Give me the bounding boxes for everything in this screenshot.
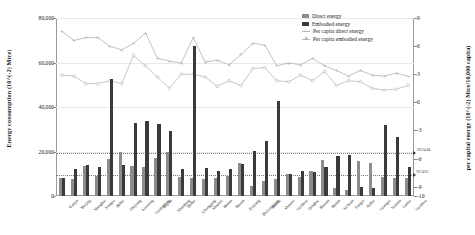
reference-line-value: 9574.93 bbox=[417, 170, 429, 174]
x-axis-tick-label: Anhui bbox=[365, 198, 376, 209]
bar-embodied-energy bbox=[193, 46, 196, 196]
bar-embodied-energy bbox=[324, 167, 327, 196]
bar-embodied-energy bbox=[253, 151, 256, 196]
bar-group bbox=[116, 18, 128, 196]
bar-group bbox=[283, 18, 295, 196]
x-axis-tick-label: Xinjiang bbox=[247, 198, 261, 212]
bar-group bbox=[402, 18, 414, 196]
bar-group bbox=[307, 18, 319, 196]
bar-embodied-energy bbox=[145, 121, 148, 196]
x-axis-tick-label: Hainan bbox=[318, 198, 330, 210]
x-axis-tick-label: Hunan bbox=[234, 198, 245, 209]
x-axis-tick-label: Tianjin bbox=[67, 198, 79, 210]
bar-group bbox=[366, 18, 378, 196]
bar-group bbox=[151, 18, 163, 196]
bar-group bbox=[92, 18, 104, 196]
legend-item[interactable]: Embodied energy bbox=[302, 21, 373, 27]
y-axis-left-tick-label: 60,000 bbox=[39, 60, 54, 66]
y-axis-right-tick-mark bbox=[414, 18, 417, 19]
x-axis-tick-label: Jiangxi bbox=[354, 198, 366, 210]
bar-group bbox=[354, 18, 366, 196]
bar-group bbox=[378, 18, 390, 196]
bar-group bbox=[163, 18, 175, 196]
x-axis-tick-label: Qinghai bbox=[306, 198, 319, 211]
bar-embodied-energy bbox=[277, 101, 280, 196]
x-axis-tick-label: Guizhou bbox=[414, 198, 428, 212]
x-axis-tick-label: Hebei bbox=[115, 198, 125, 208]
bar-embodied-energy bbox=[313, 172, 316, 196]
bar-embodied-energy bbox=[348, 155, 351, 196]
y-axis-right-tick-mark bbox=[414, 74, 417, 75]
bar-group bbox=[211, 18, 223, 196]
x-axis-tick-label: Shaanxi bbox=[283, 198, 296, 211]
y-axis-right-tick-label: -3 bbox=[417, 127, 422, 133]
y-axis-left-title-text: Energy consumption (10^(-2) Mtce) bbox=[6, 49, 13, 147]
bar-embodied-energy bbox=[372, 188, 375, 196]
bar-group bbox=[68, 18, 80, 196]
x-axis-tick-label: Guizhou bbox=[295, 198, 309, 212]
bar-group bbox=[140, 18, 152, 196]
y-axis-left-title: Energy consumption (10^(-2) Mtce) bbox=[2, 0, 16, 196]
x-axis-labels: TianjinBeijingShanghaiJiangsuHebeiZhejia… bbox=[56, 198, 414, 235]
bar-embodied-energy bbox=[289, 174, 292, 196]
bar-group bbox=[128, 18, 140, 196]
y-axis-right-title-text: per capital energy (10^(-2) Mtce/10,000 … bbox=[466, 46, 472, 171]
bar-embodied-energy bbox=[301, 171, 304, 196]
bar-embodied-energy bbox=[384, 125, 387, 196]
y-axis-right-title: per capital energy (10^(-2) Mtce/10,000 … bbox=[462, 8, 475, 208]
bar-group bbox=[342, 18, 354, 196]
bar-group bbox=[80, 18, 92, 196]
bar-embodied-energy bbox=[110, 79, 113, 196]
legend-item[interactable]: ○Per capita direct energy bbox=[302, 28, 373, 34]
legend-item-label: Per capita embodied energy bbox=[313, 36, 373, 42]
y-axis-right-tick-mark bbox=[414, 130, 417, 131]
y-axis-right-tick-mark bbox=[414, 187, 417, 188]
bar-embodied-energy bbox=[241, 164, 244, 196]
bar-group bbox=[390, 18, 402, 196]
legend-item-label: Per capita direct energy bbox=[313, 28, 364, 34]
bar-embodied-energy bbox=[62, 178, 65, 196]
bar-embodied-energy bbox=[98, 167, 101, 196]
y-axis-left-tick-label: 40,000 bbox=[39, 104, 54, 110]
legend-item[interactable]: ✳Per capita embodied energy bbox=[302, 36, 373, 42]
bar-group bbox=[56, 18, 68, 196]
bar-embodied-energy bbox=[122, 165, 125, 196]
bar-group bbox=[175, 18, 187, 196]
x-axis-tick-label: Zhejiang bbox=[128, 198, 142, 212]
bar-group bbox=[330, 18, 342, 196]
y-axis-right-tick-label: 6 bbox=[417, 43, 420, 49]
bar-embodied-energy bbox=[157, 124, 160, 196]
reference-line-value: 19514.84 bbox=[417, 148, 430, 152]
legend-item-label: Direct energy bbox=[312, 13, 341, 19]
x-axis-tick-label: Shanxi bbox=[270, 198, 282, 210]
x-axis-tick-label: Gansu bbox=[401, 198, 412, 209]
bar-embodied-energy bbox=[408, 167, 411, 196]
bar-group bbox=[295, 18, 307, 196]
y-axis-left-tick-label: 80,000 bbox=[39, 15, 54, 21]
legend-item[interactable]: Direct energy bbox=[302, 13, 373, 19]
bar-embodied-energy bbox=[396, 137, 399, 196]
bar-embodied-energy bbox=[169, 131, 172, 196]
bar-embodied-energy bbox=[205, 168, 208, 196]
x-axis-tick-label: Henan bbox=[330, 198, 341, 209]
bar-group bbox=[223, 18, 235, 196]
y-axis-right-tick-label: 0 bbox=[417, 99, 420, 105]
chart-legend: Direct energyEmbodied energy○Per capita … bbox=[302, 13, 373, 42]
bar-embodied-energy bbox=[229, 169, 232, 196]
x-axis-tick-label: Sichuan bbox=[342, 198, 355, 211]
bar-embodied-energy bbox=[360, 187, 363, 196]
bar-embodied-energy bbox=[336, 156, 339, 196]
legend-item-label: Embodied energy bbox=[312, 21, 350, 27]
y-axis-right-tick-label: 3 bbox=[417, 71, 420, 77]
y-axis-right-tick-mark bbox=[414, 196, 417, 197]
y-axis-right-tick-mark bbox=[414, 102, 417, 103]
x-axis-tick-label: Henan bbox=[222, 198, 233, 209]
y-axis-right-tick-mark bbox=[414, 46, 417, 47]
bar-group bbox=[235, 18, 247, 196]
bar-group bbox=[271, 18, 283, 196]
energy-consumption-chart: Energy consumption (10^(-2) Mtce) per ca… bbox=[0, 0, 475, 235]
y-axis-right-tick-mark bbox=[414, 159, 417, 160]
legend-swatch-icon bbox=[302, 22, 309, 26]
bar-embodied-energy bbox=[134, 123, 137, 196]
bar-embodied-energy bbox=[86, 165, 89, 196]
